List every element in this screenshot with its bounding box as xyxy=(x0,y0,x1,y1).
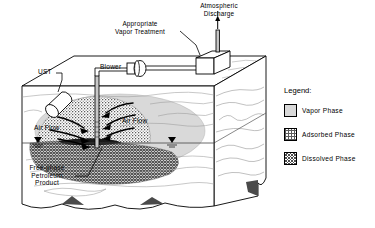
extraction-well xyxy=(95,76,99,148)
legend-title: Legend: xyxy=(284,86,375,95)
air-flow-label-left: Air Flow xyxy=(34,124,59,132)
free-phase-product-label: Free-phase Petroleum Product xyxy=(16,164,78,187)
vapor-phase-swatch xyxy=(284,104,297,117)
treatment-box-front xyxy=(196,58,214,74)
blower-unit xyxy=(127,61,146,77)
dissolved-phase-label: Dissolved Phase xyxy=(302,155,356,162)
stack-pipe xyxy=(216,30,219,52)
vapor-treatment-label: Appropriate Vapor Treatment xyxy=(98,20,182,35)
vapor-phase-label: Vapor Phase xyxy=(302,107,343,114)
dissolved-phase-swatch xyxy=(284,152,297,165)
legend-panel: Legend: Vapor Phase Adsorbed Phase Disso… xyxy=(284,86,375,165)
ust-label: UST xyxy=(38,68,52,76)
sve-diagram-figure: Atmospheric Discharge Appropriate Vapor … xyxy=(0,0,375,228)
vapor-treatment-leader xyxy=(180,31,200,55)
legend-item-adsorbed-phase: Adsorbed Phase xyxy=(284,128,375,141)
discharge-arrow xyxy=(215,16,220,30)
legend-item-dissolved-phase: Dissolved Phase xyxy=(284,152,375,165)
atmospheric-discharge-label: Atmospheric Discharge xyxy=(180,2,258,17)
air-flow-label-right: Air Flow xyxy=(122,117,147,125)
legend-item-vapor-phase: Vapor Phase xyxy=(284,104,375,117)
adsorbed-phase-label: Adsorbed Phase xyxy=(302,131,355,138)
discharge-stack xyxy=(215,16,220,53)
adsorbed-phase-swatch xyxy=(284,128,297,141)
blower-face xyxy=(135,61,140,77)
blower-label: Blower xyxy=(100,63,121,71)
